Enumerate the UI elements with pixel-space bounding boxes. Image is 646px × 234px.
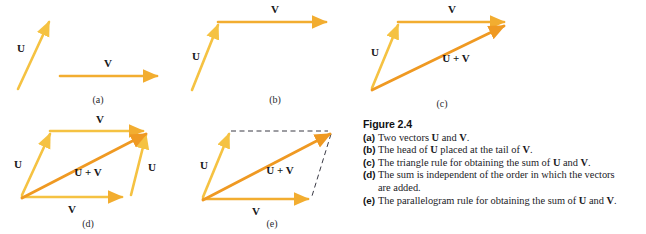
panel-b: U V (b) <box>175 0 360 110</box>
vector-u-label: U <box>371 46 379 58</box>
caption-key-e: (e) <box>363 195 378 208</box>
vector-v-bottom-label: V <box>68 203 76 215</box>
caption-key-a: (a) <box>363 132 378 145</box>
vector-u-left-label: U <box>14 158 22 170</box>
panel-b-sublabel: (b) <box>269 94 281 106</box>
panel-a-sublabel: (a) <box>92 94 103 106</box>
vector-u-right-label: U <box>148 161 156 173</box>
figure-caption: Figure 2.4 (a) Two vectors U and V. (b) … <box>363 118 646 207</box>
caption-item-b: (b) The head of U placed at the tail of … <box>363 144 646 157</box>
caption-key-b: (b) <box>363 144 378 157</box>
figure-caption-title: Figure 2.4 <box>363 118 646 131</box>
vector-u-label: U <box>192 50 200 62</box>
caption-item-c: (c) The triangle rule for obtaining the … <box>363 157 646 170</box>
vector-u-arrow <box>18 22 49 89</box>
caption-text-e: The parallelogram rule for obtaining the… <box>378 195 646 208</box>
caption-text-c: The triangle rule for obtaining the sum … <box>378 157 646 170</box>
panel-c: U V U + V (c) <box>360 0 535 115</box>
panel-e: U V U + V (e) <box>196 112 381 234</box>
vector-v-top-label: V <box>96 113 104 125</box>
vector-sum-label: U + V <box>74 166 102 178</box>
panel-d-sublabel: (d) <box>82 218 94 230</box>
caption-text-d-continuation: are added. <box>378 182 646 195</box>
vector-sum-label: U + V <box>442 52 470 64</box>
vector-u-right-arrow <box>131 135 146 195</box>
panel-d: U V V U U + V (d) <box>0 112 200 234</box>
caption-item-a: (a) Two vectors U and V. <box>363 132 646 145</box>
panel-c-sublabel: (c) <box>436 98 447 110</box>
caption-key-c: (c) <box>363 157 378 170</box>
vector-v-label: V <box>104 57 112 69</box>
vector-u-label: U <box>200 159 208 171</box>
figure-2-4: U V (a) U V (b) <box>0 0 646 234</box>
vector-v-label: V <box>252 205 260 217</box>
caption-text-b: The head of U placed at the tail of V. <box>378 144 646 157</box>
vector-v-label: V <box>271 3 279 15</box>
panel-e-sublabel: (e) <box>266 218 277 230</box>
caption-item-e: (e) The parallelogram rule for obtaining… <box>363 195 646 208</box>
caption-key-d: (d) <box>363 169 378 182</box>
caption-item-d: (d) The sum is independent of the order … <box>363 169 646 182</box>
vector-v-label: V <box>448 3 456 15</box>
vector-u-label: U <box>17 42 25 54</box>
caption-text-a: Two vectors U and V. <box>378 132 646 145</box>
vector-sum-arrow <box>372 26 504 90</box>
panel-a: U V (a) <box>0 0 175 110</box>
vector-sum-label: U + V <box>266 164 294 176</box>
caption-text-d: The sum is independent of the order in w… <box>378 169 646 182</box>
